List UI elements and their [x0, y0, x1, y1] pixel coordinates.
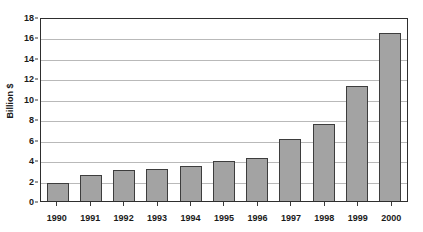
- bar-slot: [108, 19, 141, 201]
- y-tick-mark: [35, 202, 38, 203]
- x-tick-slot: [107, 202, 140, 206]
- x-label-slot: 1995: [207, 207, 240, 223]
- x-tick-slot: [207, 202, 240, 206]
- x-tick-mark: [357, 202, 358, 206]
- y-tick-label: 4: [29, 156, 34, 166]
- x-tick-slot: [241, 202, 274, 206]
- y-tick-mark: [35, 120, 38, 121]
- bar[interactable]: [180, 166, 202, 201]
- bar[interactable]: [313, 124, 335, 201]
- bar-slot: [274, 19, 307, 201]
- x-label-slot: 1993: [140, 207, 173, 223]
- y-axis-tick-labels: 024681012141618: [18, 18, 38, 202]
- bar-slot: [174, 19, 207, 201]
- x-tick-mark: [391, 202, 392, 206]
- x-label-slot: 1998: [308, 207, 341, 223]
- bar-slot: [241, 19, 274, 201]
- x-tick-slot: [40, 202, 73, 206]
- bar[interactable]: [213, 161, 235, 201]
- x-label-slot: 1994: [174, 207, 207, 223]
- y-tick-label: 6: [29, 136, 34, 146]
- bar-slot: [141, 19, 174, 201]
- y-tick-mark: [35, 38, 38, 39]
- x-axis-tickmarks: [40, 202, 408, 206]
- y-tick-label: 0: [29, 197, 34, 207]
- y-axis-title: Billion $: [0, 0, 18, 202]
- x-tick-mark: [190, 202, 191, 206]
- plot-area: [40, 18, 408, 202]
- y-tick-label: 16: [24, 33, 34, 43]
- x-tick-slot: [140, 202, 173, 206]
- x-label-slot: 1992: [107, 207, 140, 223]
- x-tick-mark: [90, 202, 91, 206]
- x-tick-label: 1996: [247, 213, 267, 223]
- x-tick-label: 1995: [214, 213, 234, 223]
- bar-slot: [374, 19, 407, 201]
- x-tick-mark: [123, 202, 124, 206]
- bar-slot: [41, 19, 74, 201]
- x-label-slot: 2000: [375, 207, 408, 223]
- x-axis-tick-labels: 1990199119921993199419951996199719981999…: [40, 207, 408, 223]
- x-tick-mark: [223, 202, 224, 206]
- y-tick-label: 2: [29, 177, 34, 187]
- x-tick-slot: [274, 202, 307, 206]
- bar[interactable]: [146, 169, 168, 201]
- y-tick-label: 10: [24, 95, 34, 105]
- y-tick-mark: [35, 58, 38, 59]
- x-tick-mark: [290, 202, 291, 206]
- x-tick-mark: [257, 202, 258, 206]
- x-tick-slot: [341, 202, 374, 206]
- x-tick-label: 1993: [147, 213, 167, 223]
- y-tick-mark: [35, 79, 38, 80]
- x-tick-slot: [174, 202, 207, 206]
- y-tick-mark: [35, 18, 38, 19]
- x-tick-slot: [73, 202, 106, 206]
- y-axis-title-label: Billion $: [4, 83, 14, 118]
- bar-slot: [207, 19, 240, 201]
- x-tick-mark: [324, 202, 325, 206]
- x-tick-slot: [308, 202, 341, 206]
- x-tick-label: 1990: [47, 213, 67, 223]
- bar[interactable]: [246, 158, 268, 201]
- x-label-slot: 1997: [274, 207, 307, 223]
- x-tick-label: 1994: [181, 213, 201, 223]
- x-label-slot: 1996: [241, 207, 274, 223]
- x-tick-slot: [375, 202, 408, 206]
- x-tick-label: 1999: [348, 213, 368, 223]
- x-tick-mark: [56, 202, 57, 206]
- bar-chart: Billion $ 024681012141618 19901991199219…: [0, 0, 423, 232]
- x-tick-label: 1997: [281, 213, 301, 223]
- x-label-slot: 1991: [73, 207, 106, 223]
- x-label-slot: 1990: [40, 207, 73, 223]
- bar[interactable]: [379, 33, 401, 201]
- bar-slot: [307, 19, 340, 201]
- bar[interactable]: [279, 139, 301, 201]
- y-tick-mark: [35, 99, 38, 100]
- x-label-slot: 1999: [341, 207, 374, 223]
- bar[interactable]: [47, 183, 69, 201]
- y-tick-label: 18: [24, 13, 34, 23]
- bar-slot: [74, 19, 107, 201]
- x-tick-label: 1998: [314, 213, 334, 223]
- y-tick-label: 8: [29, 115, 34, 125]
- x-tick-label: 2000: [381, 213, 401, 223]
- y-tick-mark: [35, 140, 38, 141]
- y-tick-mark: [35, 161, 38, 162]
- bar[interactable]: [346, 86, 368, 202]
- bar[interactable]: [80, 175, 102, 201]
- y-tick-label: 14: [24, 54, 34, 64]
- x-tick-label: 1992: [114, 213, 134, 223]
- y-tick-mark: [35, 181, 38, 182]
- bar-slot: [340, 19, 373, 201]
- y-tick-label: 12: [24, 74, 34, 84]
- x-tick-mark: [157, 202, 158, 206]
- bar[interactable]: [113, 170, 135, 201]
- bars-group: [41, 19, 407, 201]
- x-tick-label: 1991: [80, 213, 100, 223]
